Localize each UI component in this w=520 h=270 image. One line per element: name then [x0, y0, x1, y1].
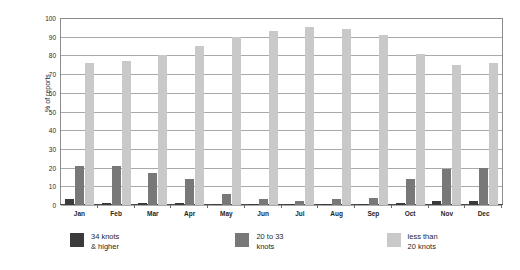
bar[interactable]	[195, 46, 204, 205]
legend-label: 20 to 33 knots	[256, 232, 283, 251]
x-tick-label-aug: Aug	[318, 206, 355, 220]
legend-swatch	[70, 233, 84, 247]
bar[interactable]	[75, 166, 84, 205]
y-tick-label: 10	[36, 183, 56, 190]
x-axis-tick-labels: JanFebMarAprMayJunJulAugSepOctNovDec	[61, 206, 502, 220]
x-tick-label-jun: Jun	[245, 206, 282, 220]
bar[interactable]	[158, 55, 167, 205]
legend-item[interactable]: 20 to 33 knots	[235, 232, 386, 262]
y-tick-label: 100	[36, 15, 56, 22]
bar[interactable]	[442, 169, 451, 205]
bar-group[interactable]	[208, 18, 245, 205]
bar-group[interactable]	[245, 18, 282, 205]
bar[interactable]	[232, 37, 241, 205]
bar[interactable]	[122, 61, 131, 205]
x-tick-label-feb: Feb	[98, 206, 135, 220]
legend-item[interactable]: less than 20 knots	[387, 232, 500, 262]
legend-label: less than 20 knots	[408, 232, 438, 251]
bar[interactable]	[369, 198, 378, 205]
x-tick-label-jul: Jul	[282, 206, 319, 220]
bar[interactable]	[342, 29, 351, 205]
y-tick-label: 20	[36, 164, 56, 171]
bar[interactable]	[185, 179, 194, 205]
legend-item[interactable]: 34 knots & higher	[70, 232, 235, 262]
bar[interactable]	[379, 35, 388, 205]
x-tick-label-nov: Nov	[429, 206, 466, 220]
chart-legend: 34 knots & higher20 to 33 knotsless than…	[70, 232, 500, 262]
y-tick-label: 0	[36, 202, 56, 209]
bar[interactable]	[479, 168, 488, 205]
wind-speed-bar-chart: % of reports 0102030405060708090100 JanF…	[0, 0, 520, 270]
y-tick-label: 30	[36, 145, 56, 152]
x-tick-label-apr: Apr	[171, 206, 208, 220]
bar-group[interactable]	[171, 18, 208, 205]
bar-group[interactable]	[465, 18, 502, 205]
y-tick-label: 40	[36, 127, 56, 134]
bar-group[interactable]	[318, 18, 355, 205]
legend-swatch	[235, 233, 249, 247]
bar-group[interactable]	[282, 18, 319, 205]
bar[interactable]	[222, 194, 231, 205]
x-tick-label-sep: Sep	[355, 206, 392, 220]
bar[interactable]	[269, 31, 278, 205]
bar-group[interactable]	[61, 18, 98, 205]
x-tick-label-mar: Mar	[135, 206, 172, 220]
y-tick-label: 70	[36, 71, 56, 78]
y-tick-label: 60	[36, 89, 56, 96]
bar[interactable]	[112, 166, 121, 205]
x-tick-label-oct: Oct	[392, 206, 429, 220]
bar[interactable]	[452, 65, 461, 205]
x-tick-label-jan: Jan	[61, 206, 98, 220]
bar[interactable]	[416, 54, 425, 205]
x-tick-label-may: May	[208, 206, 245, 220]
bar-group[interactable]	[98, 18, 135, 205]
bar-groups	[61, 18, 502, 205]
bar[interactable]	[406, 179, 415, 205]
bar[interactable]	[305, 27, 314, 205]
bar-group[interactable]	[355, 18, 392, 205]
bar[interactable]	[148, 173, 157, 205]
bar-group[interactable]	[392, 18, 429, 205]
y-tick-label: 80	[36, 52, 56, 59]
bar-group[interactable]	[429, 18, 466, 205]
bar[interactable]	[85, 63, 94, 205]
y-tick-label: 90	[36, 33, 56, 40]
cropped-title-remnant	[80, 0, 140, 6]
y-tick-label: 50	[36, 108, 56, 115]
legend-label: 34 knots & higher	[91, 232, 119, 251]
bar[interactable]	[489, 63, 498, 205]
x-tick-label-dec: Dec	[465, 206, 502, 220]
legend-swatch	[387, 233, 401, 247]
y-axis-tick-labels: 0102030405060708090100	[32, 18, 56, 205]
bar-group[interactable]	[135, 18, 172, 205]
